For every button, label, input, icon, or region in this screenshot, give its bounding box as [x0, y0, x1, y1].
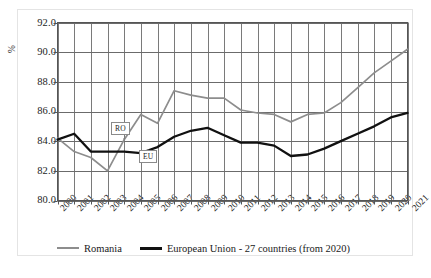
eu-tag: EU [139, 150, 157, 163]
legend-item-european-union: European Union - 27 countries (from 2020… [140, 243, 350, 254]
legend-swatch-romania [57, 247, 79, 249]
legend-label-romania: Romania [84, 243, 122, 254]
ro-tag: RO [111, 122, 130, 135]
axis-tick-marks [54, 24, 409, 205]
series-line-european-union [58, 113, 408, 156]
legend-label-european-union: European Union - 27 countries (from 2020… [167, 243, 350, 254]
horizontal-gridlines [58, 24, 408, 202]
legend-swatch-european-union [140, 247, 162, 250]
vertical-gridlines [59, 23, 409, 201]
legend: Romania European Union - 27 countries (f… [57, 240, 397, 256]
legend-item-romania: Romania [57, 243, 122, 254]
plot-border [58, 23, 408, 201]
